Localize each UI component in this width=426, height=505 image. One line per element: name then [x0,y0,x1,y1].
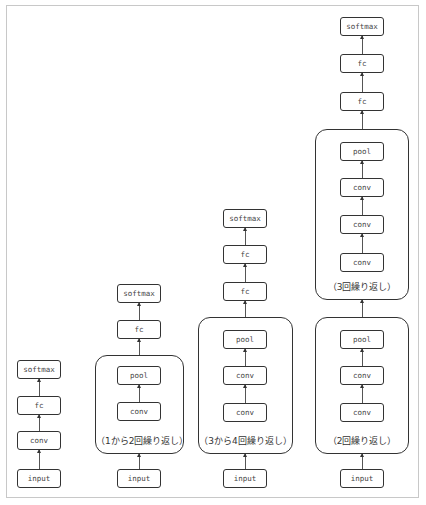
col2-fc-node: fc [117,320,161,339]
col4-repeat-label-lower: （2回繰り返し） [316,434,408,447]
col3-fc-node-2: fc [223,245,267,264]
col4-conv-node-5: conv [340,178,384,197]
col1-input-node: input [17,469,61,488]
col3-conv-node-1: conv [223,403,267,422]
col4-input-node: input [340,469,384,488]
col2-pool-node: pool [117,366,161,385]
col3-conv-node-2: conv [223,366,267,385]
col4-conv-node-4: conv [340,215,384,234]
col4-conv-node-2: conv [340,366,384,385]
col2-conv-node: conv [117,402,161,421]
col4-repeat-label-upper: （3回繰り返し） [316,280,408,293]
col4-pool-node-2: pool [340,142,384,161]
col4-fc-node-2: fc [340,54,384,73]
col3-fc-node-1: fc [223,282,267,301]
col3-pool-node: pool [223,330,267,349]
col3-softmax-node: softmax [223,209,267,228]
col1-softmax-node: softmax [17,360,61,379]
col3-input-node: input [223,469,267,488]
col4-conv-node-1: conv [340,403,384,422]
col2-repeat-label: （1から2回繰り返し） [96,434,183,447]
col1-conv-node: conv [17,431,61,450]
diagram-canvas: input conv fc softmax input （1から2回繰り返し） … [0,0,426,505]
col3-repeat-label: （3から4回繰り返し） [199,434,292,447]
col1-fc-node: fc [17,396,61,415]
col2-input-node: input [117,469,161,488]
col4-pool-node-1: pool [340,330,384,349]
col4-conv-node-3: conv [340,253,384,272]
col4-softmax-node: softmax [340,17,384,36]
col4-fc-node-1: fc [340,92,384,111]
col2-softmax-node: softmax [117,284,161,303]
